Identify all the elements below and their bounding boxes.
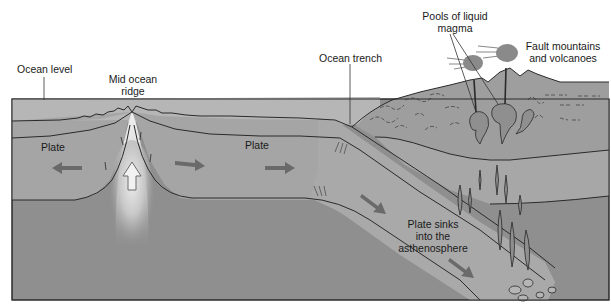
ocean-trench-label: Ocean trench: [319, 52, 382, 64]
fault-label-line1: Fault mountains: [518, 40, 608, 52]
pools-label-line1: Pools of liquid: [410, 10, 500, 22]
sinks-label-line2: into the: [388, 230, 478, 242]
plate-right-label: Plate: [245, 139, 269, 151]
magma-dike-2: [496, 165, 499, 195]
pools-label-line2: magma: [410, 22, 500, 34]
magma-dike-3: [505, 175, 508, 203]
plume-left-streaks: [447, 58, 466, 69]
mid-ocean-ridge-label-line2: ridge: [100, 85, 166, 97]
fault-mountains-label: Fault mountains and volcanoes: [518, 40, 608, 64]
ridge-glow: [110, 140, 154, 260]
sinks-label-line1: Plate sinks: [388, 218, 478, 230]
magma-dike-5: [469, 188, 472, 213]
ocean-level-label: Ocean level: [17, 63, 72, 75]
magma-dike-1: [479, 170, 481, 190]
plume-right: [496, 44, 518, 62]
pools-of-liquid-magma-label: Pools of liquid magma: [410, 10, 500, 34]
mid-ocean-ridge-label-line1: Mid ocean: [100, 73, 166, 85]
plume-left: [463, 55, 483, 71]
magma-dike-6: [519, 195, 522, 215]
fault-label-line2: and volcanoes: [518, 52, 608, 64]
sinks-label-line3: asthenosphere: [388, 242, 478, 254]
plate-sinks-label: Plate sinks into the asthenosphere: [388, 218, 478, 254]
plate-left-label: Plate: [41, 141, 65, 153]
mid-ocean-ridge-label: Mid ocean ridge: [100, 73, 166, 97]
plume-right-streaks: [476, 46, 499, 58]
